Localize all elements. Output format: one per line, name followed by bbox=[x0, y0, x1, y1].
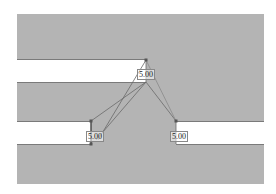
lower-left-label: 5.00 bbox=[86, 131, 104, 142]
lower-left-bottom-marker bbox=[90, 143, 93, 146]
connector-upper-bottom-to-lower-left bbox=[91, 82, 146, 121]
lower-right-label: 5.00 bbox=[170, 131, 188, 142]
upper-vertex-label: 5.00 bbox=[137, 69, 155, 80]
diagram-canvas: 5.00 5.00 5.00 bbox=[0, 0, 276, 194]
connector-upper-to-lower-right bbox=[146, 82, 176, 121]
upper-vertex-marker bbox=[145, 59, 148, 62]
dimension-lines bbox=[0, 0, 276, 194]
lower-right-top-marker bbox=[175, 120, 178, 123]
lower-left-top-marker bbox=[90, 120, 93, 123]
